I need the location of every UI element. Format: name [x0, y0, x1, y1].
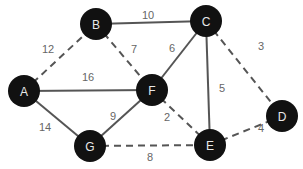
edge-weight-a-g: 14	[39, 121, 51, 133]
node-g: G	[74, 130, 106, 162]
edge-weight-g-e: 8	[147, 151, 153, 163]
edge-weight-f-g: 9	[110, 110, 116, 122]
graph-diagram: 1216141076539284 ABCDEFG	[0, 0, 303, 169]
edge-weight-f-e: 2	[164, 111, 170, 123]
node-label: D	[278, 110, 287, 124]
edge-weight-a-b: 12	[42, 43, 54, 55]
node-label: B	[92, 18, 100, 32]
node-label: E	[206, 139, 214, 153]
node-f: F	[136, 74, 168, 106]
node-c: C	[190, 5, 222, 37]
edge-weight-c-f: 6	[169, 42, 175, 54]
edge-a-f	[24, 90, 152, 91]
node-b: B	[80, 8, 112, 40]
node-label: F	[148, 84, 155, 98]
node-label: C	[202, 15, 211, 29]
node-e: E	[194, 129, 226, 161]
node-label: G	[85, 140, 94, 154]
edge-b-c	[96, 21, 206, 24]
node-label: A	[20, 85, 28, 99]
edge-weight-e-d: 4	[258, 122, 264, 134]
node-a: A	[8, 75, 40, 107]
nodes-layer: ABCDEFG	[8, 5, 298, 162]
edge-weight-a-f: 16	[82, 71, 94, 83]
edge-weight-b-c: 10	[142, 9, 154, 21]
edge-c-e	[206, 21, 210, 145]
edge-weight-c-e: 5	[219, 82, 225, 94]
edge-weight-b-f: 7	[131, 43, 137, 55]
edge-g-e	[90, 145, 210, 146]
edge-c-d	[206, 21, 282, 116]
edge-weight-c-d: 3	[258, 40, 264, 52]
node-d: D	[266, 100, 298, 132]
